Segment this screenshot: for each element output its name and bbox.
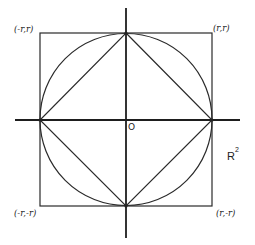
origin-label: O bbox=[128, 122, 135, 132]
space-label-exponent: 2 bbox=[235, 146, 239, 153]
corner-label-top-right: (r,r) bbox=[213, 23, 230, 33]
corner-label-top-left: (-r,r) bbox=[14, 24, 33, 34]
intercept-point-top bbox=[124, 31, 127, 34]
intercept-point-bottom bbox=[124, 204, 127, 207]
corner-label-bottom-right: (r,-r) bbox=[216, 208, 235, 218]
corner-label-bottom-left: (-r,-r) bbox=[14, 208, 36, 218]
intercept-point-right bbox=[210, 118, 213, 121]
r2-square-circle-diamond-diagram: (-r,r) (r,r) (-r,-r) (r,-r) O R 2 bbox=[0, 0, 255, 245]
intercept-point-left bbox=[38, 118, 41, 121]
space-label: R bbox=[227, 150, 235, 162]
